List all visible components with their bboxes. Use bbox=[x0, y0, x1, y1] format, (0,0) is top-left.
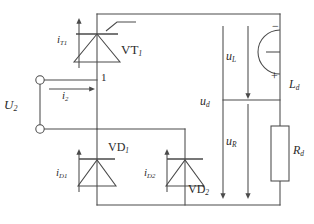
source-voltage-label: U2 bbox=[4, 98, 17, 113]
terminal-one-label: 1 bbox=[101, 72, 107, 83]
diode-vd2-label: VD2 bbox=[188, 183, 209, 197]
diode-vd2-current-label: iD2 bbox=[144, 167, 155, 180]
source-terminal-top bbox=[36, 76, 44, 84]
source-terminal-bottom bbox=[36, 125, 44, 133]
circuit-diagram-canvas: U2 i2 1 VT1 iT1 VD1 iD1 VD2 iD2 ud uL uR… bbox=[0, 0, 314, 224]
inductor-ld-label: Ld bbox=[289, 78, 299, 92]
inductor-positive-polarity-label: + bbox=[271, 70, 278, 82]
diode-vd1-label: VD1 bbox=[108, 141, 129, 155]
resistor-rd-symbol bbox=[271, 126, 289, 181]
inductor-ld-symbol bbox=[258, 30, 280, 74]
resistor-rd-label: Rd bbox=[293, 144, 304, 158]
thyristor-vt1-label: VT1 bbox=[121, 43, 142, 58]
wire-group bbox=[40, 14, 280, 205]
diode-vd1-current-label: iD1 bbox=[56, 167, 67, 180]
resistor-voltage-label: uR bbox=[226, 135, 237, 149]
output-voltage-label: ud bbox=[200, 95, 210, 109]
source-current-label: i2 bbox=[62, 90, 68, 103]
inductor-negative-polarity-label: − bbox=[272, 20, 279, 32]
circuit-schematic-svg bbox=[0, 0, 314, 224]
thyristor-current-label: iT1 bbox=[57, 34, 67, 47]
thyristor-gate-lead bbox=[106, 22, 136, 31]
inductor-voltage-label: uL bbox=[226, 50, 236, 64]
